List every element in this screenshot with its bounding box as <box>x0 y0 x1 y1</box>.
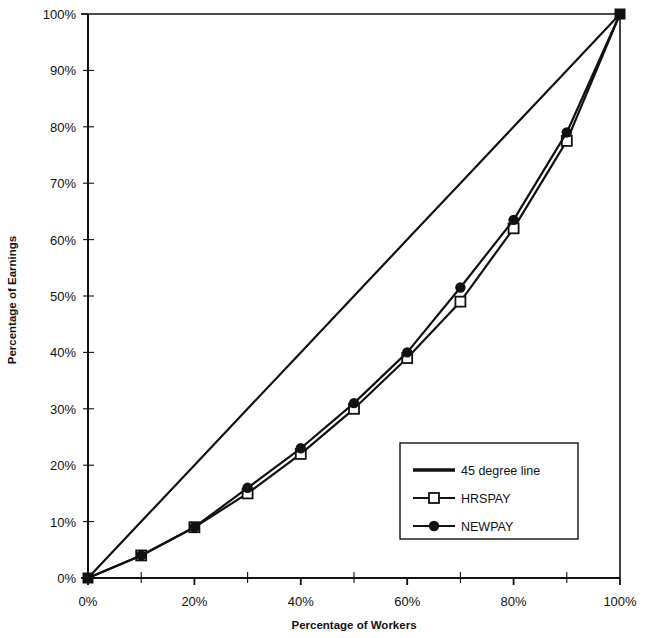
endpoint-marker <box>83 573 94 584</box>
y-tick-label: 10% <box>50 515 76 530</box>
y-tick-label: 0% <box>57 571 76 586</box>
y-tick-label: 20% <box>50 458 76 473</box>
x-tick-label: 60% <box>394 594 420 609</box>
legend-label: NEWPAY <box>461 520 514 534</box>
y-tick-label: 50% <box>50 289 76 304</box>
y-tick-label: 100% <box>43 7 77 22</box>
x-tick-label: 100% <box>603 594 637 609</box>
x-tick-label: 0% <box>79 594 98 609</box>
data-point-marker <box>562 127 572 137</box>
data-point-marker <box>242 483 252 493</box>
data-point-marker <box>296 443 306 453</box>
x-tick-label: 80% <box>501 594 527 609</box>
data-point-marker <box>349 398 359 408</box>
legend-marker-square <box>429 493 439 503</box>
data-point-marker <box>402 347 412 357</box>
data-point-marker <box>508 215 518 225</box>
y-tick-label: 60% <box>50 233 76 248</box>
data-point-marker <box>189 522 199 532</box>
chart-background <box>0 0 645 638</box>
legend-label: 45 degree line <box>461 464 540 478</box>
chart-canvas: 0%10%20%30%40%50%60%70%80%90%100% 0%20%4… <box>0 0 645 638</box>
y-tick-label: 80% <box>50 120 76 135</box>
legend-marker-circle <box>429 521 439 531</box>
lorenz-curve-chart: 0%10%20%30%40%50%60%70%80%90%100% 0%20%4… <box>0 0 645 638</box>
legend-label: HRSPAY <box>461 492 511 506</box>
y-tick-label: 30% <box>50 402 76 417</box>
data-point-marker <box>455 282 465 292</box>
y-tick-label: 40% <box>50 345 76 360</box>
endpoint-marker <box>615 9 626 20</box>
chart-legend: 45 degree lineHRSPAYNEWPAY <box>400 443 578 539</box>
y-tick-label: 90% <box>50 63 76 78</box>
x-axis-title: Percentage of Workers <box>291 619 416 631</box>
y-tick-label: 70% <box>50 176 76 191</box>
data-point-marker <box>136 550 146 560</box>
x-tick-label: 20% <box>181 594 207 609</box>
x-tick-label: 40% <box>288 594 314 609</box>
y-axis-title: Percentage of Earnings <box>6 236 18 364</box>
data-point-marker <box>455 297 465 307</box>
